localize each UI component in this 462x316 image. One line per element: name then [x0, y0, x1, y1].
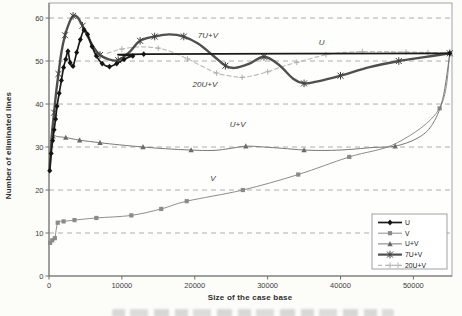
x-tick-label: 20000	[184, 281, 205, 290]
x-axis-title: Size of the case base	[130, 293, 370, 302]
y-axis-title: Number of eliminated lines	[4, 76, 15, 216]
inline-label-U+V: U+V	[230, 120, 246, 129]
y-tick-label: 20	[35, 186, 43, 195]
x-tick-label: 40000	[330, 281, 351, 290]
figure: 0102030405060010000200003000040000500007…	[0, 0, 462, 316]
legend: UVU+V7U+V20U+V	[372, 214, 447, 269]
legend-label: U	[405, 219, 410, 226]
inline-label-20U+V: 20U+V	[192, 80, 218, 89]
y-tick-label: 60	[35, 14, 43, 23]
legend-label: 7U+V	[405, 251, 423, 258]
x-tick-label: 50000	[403, 281, 424, 290]
x-tick-label: 0	[47, 281, 51, 290]
x-tick-label: 30000	[257, 281, 278, 290]
y-tick-label: 40	[35, 100, 43, 109]
legend-label: 20U+V	[405, 262, 426, 269]
y-tick-label: 30	[35, 143, 43, 152]
inline-label-7U+V: 7U+V	[198, 31, 219, 40]
y-tick-label: 50	[35, 57, 43, 66]
line-chart-canvas: 0102030405060010000200003000040000500007…	[0, 0, 462, 316]
y-tick-label: 0	[39, 272, 43, 281]
legend-label: U+V	[405, 240, 419, 247]
inline-label-V: V	[210, 174, 216, 183]
x-tick-label: 10000	[111, 281, 132, 290]
y-tick-label: 10	[35, 229, 43, 238]
inline-label-U: U	[319, 38, 325, 47]
legend-label: V	[405, 230, 410, 237]
cropped-caption-text	[112, 309, 394, 316]
